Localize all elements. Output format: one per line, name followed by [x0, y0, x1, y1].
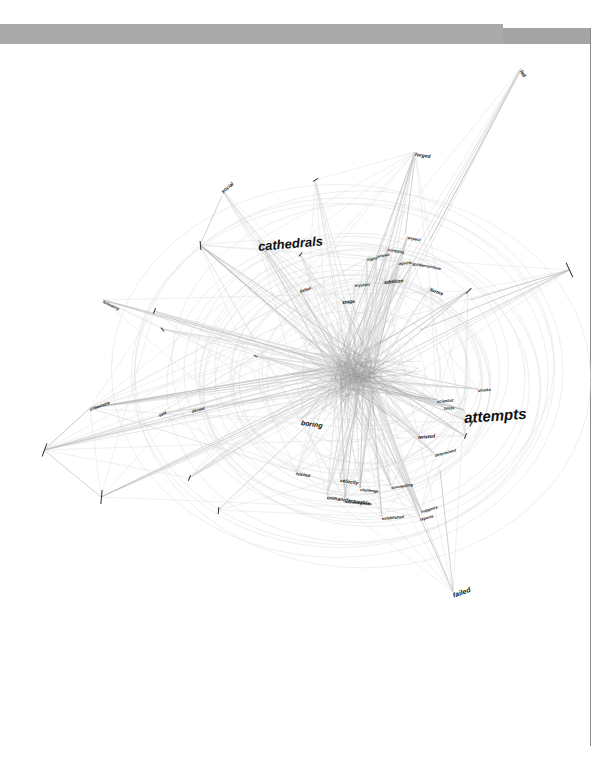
- network-graph-edges: [0, 0, 616, 777]
